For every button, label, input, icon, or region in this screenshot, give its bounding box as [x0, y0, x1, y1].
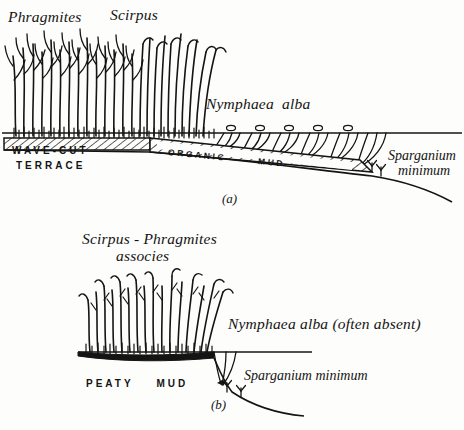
panel-a-linework [2, 29, 462, 202]
panel-label-a: (a) [222, 192, 237, 207]
panel-label-b: (b) [211, 398, 226, 413]
label-peaty-mud: PEATY MUD [86, 378, 188, 389]
reed-bed-b [79, 269, 233, 354]
label-sparganium-a-line1: Sparganium [388, 148, 456, 164]
label-associes-line1: Scirpus - Phragmites [82, 230, 217, 247]
reed-bed-a [5, 29, 226, 138]
label-nymphaea-alba-b: Nymphaea alba (often absent) [228, 315, 421, 332]
label-associes-line2: associes [116, 247, 169, 264]
sparganium-sprouts-a [368, 161, 386, 177]
label-sparganium-a-line2: minimum [398, 163, 450, 179]
label-phragmites-a: Phragmites [8, 8, 81, 25]
label-terrace: TERRACE [16, 160, 85, 171]
label-scirpus-a: Scirpus [110, 6, 158, 23]
panel-b-linework [78, 269, 312, 416]
vegetation-transect-figure: Phragmites Scirpus Nymphaea alba WAVE-CU… [0, 0, 464, 430]
label-sparganium-b: Sparganium minimum [244, 368, 368, 384]
figure-linework [0, 0, 464, 430]
label-wave-cut: WAVE-CUT [12, 145, 89, 156]
label-nymphaea-alba-a: Nymphaea alba [206, 95, 310, 112]
